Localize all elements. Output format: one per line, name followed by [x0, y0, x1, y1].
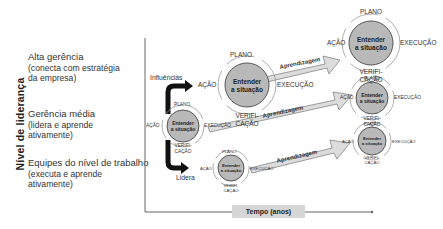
cycle-top-label: PLANO [364, 76, 380, 81]
cycle-bottom-label: VERIFI- CAÇÃO [168, 143, 198, 155]
center-line: a situação [355, 141, 389, 146]
cycle-right-label: EXECUÇÃO [204, 123, 231, 128]
cycle-left-label: AÇÃO [198, 81, 216, 88]
cycle-bottom-label: VERIFI- CAÇÃO [218, 183, 244, 193]
cycle-top-label: PLANO [222, 149, 236, 154]
influences-label: Influências [150, 74, 183, 81]
cycle-right-label: EXECUÇÃO [250, 166, 274, 171]
x-axis-label: Tempo (anos) [232, 205, 305, 218]
cycle-left-label: AÇÃO [327, 39, 345, 46]
center-line: a situação [352, 98, 392, 104]
cycle-right-label: EXECUÇÃO [277, 81, 313, 88]
center-line: Entender [346, 36, 396, 44]
cycle-top-label: PLANO [360, 8, 382, 15]
cycle-top-label: PLANO [174, 102, 190, 107]
cycle-center-label: Entender a situação [222, 78, 272, 94]
cycle-left-label: AÇÃO [340, 95, 354, 100]
cycle-center-label: Entender a situação [346, 36, 396, 52]
center-line: a situação [214, 168, 248, 173]
leads-label: Lidera [176, 174, 195, 181]
bottom-line: CAÇÃO [168, 149, 198, 155]
center-line: a situação [163, 126, 203, 132]
center-line: a situação [222, 86, 272, 94]
cycle-center-label: Entender a situação [214, 163, 248, 173]
center-line: Entender [222, 78, 272, 86]
cycle-center-label: Entender a situação [355, 136, 389, 146]
cycle-left-label: AÇÃO [146, 123, 160, 128]
bottom-line: CAÇÃO [218, 188, 244, 193]
cycle-top-label: PLANO [364, 121, 378, 126]
center-line: a situação [346, 44, 396, 52]
bottom-line: CAÇÃO [359, 160, 385, 165]
cycle-right-label: EXECUÇÃO [392, 139, 416, 144]
cycle-center-label: Entender a situação [163, 120, 203, 132]
cycle-bottom-label: VERIFI- CAÇÃO [359, 155, 385, 165]
cycle-left-label: AÇÃO [200, 166, 212, 171]
cycle-top-label: PLANO [230, 51, 252, 58]
bottom-line: VERIFI- [346, 68, 396, 76]
cycle-left-label: AÇÃO [342, 139, 354, 144]
cycle-center-label: Entender a situação [352, 92, 392, 104]
cycle-right-label: EXECUÇÃO [394, 95, 421, 100]
cycle-right-label: EXECUÇÃO [400, 39, 436, 46]
